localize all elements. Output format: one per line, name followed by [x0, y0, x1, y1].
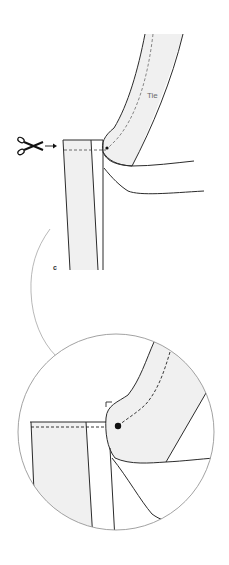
top-view: Tie c: [17, 34, 204, 271]
pivot-point-magnified: [115, 423, 121, 429]
step-label: c: [53, 264, 57, 271]
magnified-detail: [18, 334, 215, 540]
tie-strip: [102, 34, 183, 166]
band-fill: [63, 140, 98, 270]
sewing-diagram: Tie c: [0, 0, 229, 565]
pivot-point: [105, 146, 108, 149]
callout-connector: [31, 229, 56, 356]
bodice-edge-lower: [104, 168, 204, 194]
scissors-icon: [17, 136, 43, 155]
band-inner-edge: [101, 140, 109, 270]
arrow-right-icon: [45, 144, 57, 149]
band-fill-magnified: [31, 422, 93, 540]
tie-label: Tie: [147, 91, 158, 100]
